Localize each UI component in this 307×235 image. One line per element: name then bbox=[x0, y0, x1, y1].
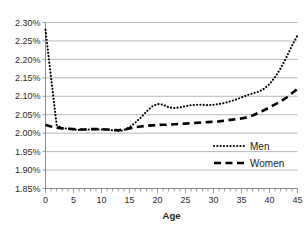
y-axis-tick-label: 2.05% bbox=[15, 110, 41, 120]
y-axis-tick-label: 2.00% bbox=[15, 128, 41, 138]
x-axis-tick-label: 30 bbox=[208, 195, 218, 205]
x-axis-tick-label: 20 bbox=[152, 195, 162, 205]
x-axis-title: Age bbox=[163, 210, 181, 221]
line-chart: 1.85%1.90%1.95%2.00%2.05%2.10%2.15%2.20%… bbox=[0, 0, 307, 235]
y-axis-tick-label: 1.95% bbox=[15, 147, 41, 157]
x-axis-tick-label: 25 bbox=[180, 195, 190, 205]
legend-label-men: Men bbox=[250, 141, 269, 152]
y-axis-tick-label: 2.20% bbox=[15, 55, 41, 65]
y-axis-tick-label: 1.85% bbox=[15, 184, 41, 194]
y-axis-tick-label: 2.15% bbox=[15, 73, 41, 83]
x-axis-tick-label: 35 bbox=[236, 195, 246, 205]
x-axis-tick-label: 40 bbox=[264, 195, 274, 205]
chart-container: 1.85%1.90%1.95%2.00%2.05%2.10%2.15%2.20%… bbox=[0, 0, 307, 235]
y-axis-tick-label: 1.90% bbox=[15, 165, 41, 175]
x-axis-tick-label: 45 bbox=[292, 195, 302, 205]
x-axis-tick-label: 5 bbox=[71, 195, 76, 205]
x-axis-tick-label: 0 bbox=[43, 195, 48, 205]
y-axis-tick-label: 2.30% bbox=[15, 18, 41, 28]
x-axis-tick-label: 10 bbox=[96, 195, 106, 205]
x-axis-tick-label: 15 bbox=[124, 195, 134, 205]
legend-label-women: Women bbox=[250, 158, 284, 169]
y-axis-tick-label: 2.25% bbox=[15, 36, 41, 46]
y-axis-tick-label: 2.10% bbox=[15, 91, 41, 101]
